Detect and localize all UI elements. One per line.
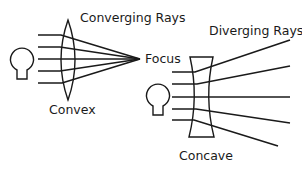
lens-diagram: Converging Rays Focus Convex Diverging R…	[0, 0, 302, 170]
converging-rays	[38, 35, 140, 83]
left-bulb-icon	[11, 48, 34, 79]
diverging-rays	[172, 40, 290, 146]
convex-lens	[61, 20, 75, 100]
diverging-rays-title: Diverging Rays	[209, 25, 302, 38]
right-bulb-icon	[147, 84, 170, 115]
converging-rays-title: Converging Rays	[80, 12, 186, 25]
convex-label: Convex	[49, 104, 96, 117]
focus-label: Focus	[145, 53, 181, 66]
concave-label: Concave	[179, 150, 233, 163]
